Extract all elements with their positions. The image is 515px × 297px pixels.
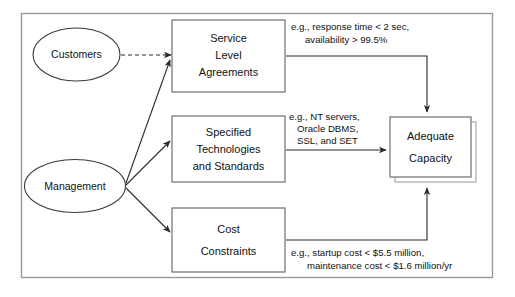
- diagram-container: Customers Management Service Level Agree…: [0, 0, 515, 297]
- annotation-technology-examples: e.g., NT servers, Oracle DBMS, SSL, and …: [289, 111, 360, 146]
- annotation-sla-examples: e.g., response time < 2 sec, availabilit…: [291, 21, 409, 45]
- adequate-capacity-box: [390, 117, 471, 177]
- node-service-level-agreements[interactable]: Service Level Agreements: [172, 20, 285, 92]
- annotation-sla-line-1: e.g., response time < 2 sec,: [291, 21, 409, 32]
- annotation-cost-line-1: e.g., startup cost < $5.5 million,: [291, 247, 424, 258]
- cost-box: [172, 208, 285, 272]
- annotation-technologies-line-1: e.g., NT servers,: [289, 111, 360, 122]
- node-adequate-capacity[interactable]: Adequate Capacity: [390, 117, 476, 182]
- adequate-capacity-label-line-2: Capacity: [409, 152, 452, 164]
- annotation-sla-line-2: availability > 99.5%: [305, 34, 388, 45]
- customers-label: Customers: [51, 48, 102, 60]
- management-label: Management: [44, 180, 105, 192]
- technologies-label-line-3: and Standards: [193, 160, 265, 172]
- sla-label-line-1: Service: [210, 32, 247, 44]
- node-specified-technologies[interactable]: Specified Technologies and Standards: [172, 116, 285, 182]
- connector-sla-to-capacity: [286, 56, 427, 112]
- annotation-technologies-line-3: SSL, and SET: [297, 135, 358, 146]
- connector-management-to-cost: [126, 188, 170, 232]
- diagram-canvas: Customers Management Service Level Agree…: [0, 0, 515, 297]
- technologies-label-line-1: Specified: [206, 126, 251, 138]
- connector-cost-to-capacity: [286, 188, 427, 240]
- technologies-label-line-2: Technologies: [196, 143, 261, 155]
- cost-label-line-1: Cost: [217, 223, 240, 235]
- actor-customers[interactable]: Customers: [33, 28, 120, 81]
- node-cost-constraints[interactable]: Cost Constraints: [172, 208, 285, 272]
- actor-management[interactable]: Management: [25, 160, 126, 213]
- annotation-cost-examples: e.g., startup cost < $5.5 million, maint…: [291, 247, 453, 271]
- sla-label-line-2: Level: [215, 49, 241, 61]
- adequate-capacity-label-line-1: Adequate: [407, 130, 454, 142]
- annotation-cost-line-2: maintenance cost < $1.6 million/yr: [307, 260, 453, 271]
- cost-label-line-2: Constraints: [201, 245, 257, 257]
- sla-label-line-3: Agreements: [199, 66, 259, 78]
- annotation-technologies-line-2: Oracle DBMS,: [297, 123, 358, 134]
- connector-management-to-sla: [126, 60, 170, 183]
